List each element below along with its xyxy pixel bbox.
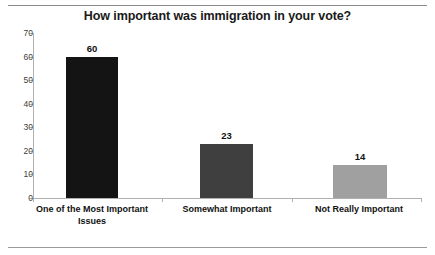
x-category-label-line: Issues bbox=[24, 215, 160, 227]
y-tick-label: 30 bbox=[9, 123, 33, 132]
x-tick-mark bbox=[33, 198, 34, 202]
y-tick-label: 50 bbox=[9, 76, 33, 85]
plot-area: 0 10 20 30 40 50 60 70 bbox=[0, 0, 435, 255]
x-category-label-somewhat-important: Somewhat Important bbox=[165, 203, 289, 215]
x-category-label-not-really-important: Not Really Important bbox=[296, 203, 422, 215]
y-tick-label: 10 bbox=[9, 170, 33, 179]
y-tick-label: 40 bbox=[9, 100, 33, 109]
bar-value-label: 14 bbox=[333, 152, 387, 162]
y-tick-label: 70 bbox=[9, 29, 33, 38]
y-tick-label: 20 bbox=[9, 147, 33, 156]
bar-value-label: 60 bbox=[66, 44, 118, 54]
bar-one-of-the-most-important-issues[interactable] bbox=[66, 57, 118, 198]
bar-value-label: 23 bbox=[200, 131, 253, 141]
y-tick-label: 60 bbox=[9, 53, 33, 62]
x-category-label-line: Somewhat Important bbox=[165, 203, 289, 215]
bar-not-really-important[interactable] bbox=[333, 165, 387, 198]
bottom-divider-rule bbox=[8, 247, 427, 248]
x-tick-mark bbox=[162, 198, 163, 202]
x-axis-line bbox=[33, 198, 422, 199]
x-category-label-one-of-the-most-important-issues: One of the Most Important Issues bbox=[24, 203, 160, 227]
x-tick-mark bbox=[421, 198, 422, 202]
x-category-label-line: One of the Most Important bbox=[24, 203, 160, 215]
x-tick-mark bbox=[292, 198, 293, 202]
bar-chart-figure: How important was immigration in your vo… bbox=[0, 0, 435, 255]
y-axis-line bbox=[33, 33, 34, 198]
bar-somewhat-important[interactable] bbox=[200, 144, 253, 198]
y-tick-label: 0 bbox=[9, 194, 33, 203]
x-category-label-line: Not Really Important bbox=[296, 203, 422, 215]
